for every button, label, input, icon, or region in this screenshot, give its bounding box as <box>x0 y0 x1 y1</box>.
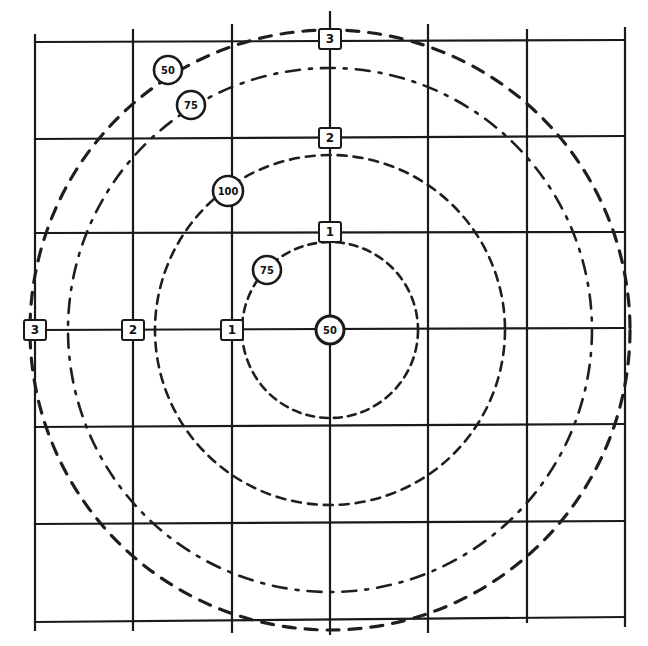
axis-marker-text: 2 <box>326 131 334 145</box>
axis-marker-horizontal-3: 3 <box>24 320 46 340</box>
axis-marker-vertical-2: 2 <box>319 128 341 148</box>
axis-marker-text: 2 <box>129 323 137 337</box>
contour-label-100: 100 <box>213 176 243 206</box>
center-marker-text: 50 <box>323 324 337 337</box>
grid-line-horizontal <box>35 424 625 427</box>
center-marker: 50 <box>316 316 344 344</box>
axis-marker-text: 1 <box>326 225 334 239</box>
contour-label-text: 50 <box>161 64 175 77</box>
axis-marker-vertical-1: 1 <box>319 222 341 242</box>
contour-diagram: 50 75 100 75 3 2 1 3 2 1 50 <box>0 0 648 646</box>
contour-label-text: 100 <box>218 185 239 198</box>
axis-marker-horizontal-1: 1 <box>221 320 243 340</box>
axis-marker-horizontal-2: 2 <box>122 320 144 340</box>
contour-label-50: 50 <box>154 56 182 84</box>
axis-marker-text: 3 <box>31 323 39 337</box>
contour-label-75-inner: 75 <box>253 256 281 284</box>
grid-line-horizontal <box>35 521 625 524</box>
axis-marker-text: 3 <box>326 32 334 46</box>
axis-marker-text: 1 <box>228 323 236 337</box>
axis-marker-vertical-3: 3 <box>319 29 341 49</box>
contour-label-text: 75 <box>184 99 198 112</box>
contour-label-75-outer: 75 <box>177 91 205 119</box>
contour-label-text: 75 <box>260 264 274 277</box>
